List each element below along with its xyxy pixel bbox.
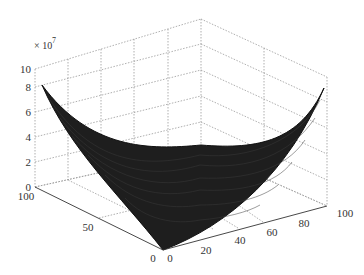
surface-plot: 0 2 4 6 8 10 × 10 7 100 50 0 0 20 40 60 … xyxy=(0,0,364,275)
z-tick-6: 6 xyxy=(26,106,32,118)
z-axis-ticks: 0 2 4 6 8 10 × 10 7 xyxy=(20,36,56,193)
z-tick-8: 8 xyxy=(26,81,32,93)
z-tick-2: 2 xyxy=(26,156,32,168)
y-tick-100: 100 xyxy=(18,190,35,202)
x-tick-0: 0 xyxy=(167,252,173,264)
x-tick-20: 20 xyxy=(201,244,213,256)
x-tick-40: 40 xyxy=(235,234,247,246)
y-tick-50: 50 xyxy=(83,221,95,233)
z-multiplier-exponent: 7 xyxy=(52,36,56,45)
y-tick-0: 0 xyxy=(150,252,156,264)
x-tick-100: 100 xyxy=(337,207,354,219)
x-tick-60: 60 xyxy=(267,226,279,238)
z-multiplier: × 10 xyxy=(34,40,52,51)
z-tick-4: 4 xyxy=(26,131,32,143)
z-tick-10: 10 xyxy=(20,63,32,75)
x-tick-80: 80 xyxy=(299,217,311,229)
